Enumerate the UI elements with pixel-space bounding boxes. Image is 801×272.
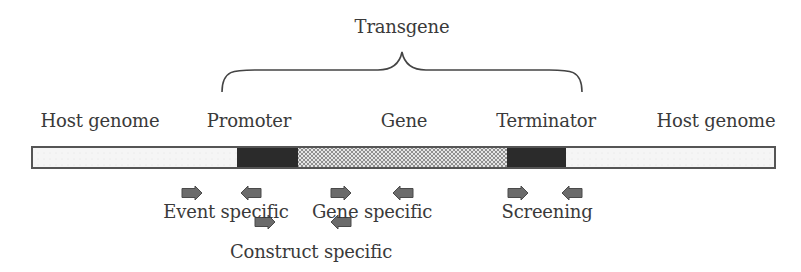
transgene-title: Transgene [355,18,450,36]
segment-gene [298,147,507,168]
region-label-host-genome-right: Host genome [657,112,776,130]
screening-reverse-primer-arrow-icon [562,186,582,200]
primer-label-gene-specific: Gene specific [312,203,432,221]
gene-specific-reverse-primer-arrow-icon [393,186,413,200]
region-label-terminator: Terminator [496,112,596,130]
event-specific-forward-primer-arrow-icon [182,186,202,200]
segment-host-right [566,147,775,168]
primer-label-screening: Screening [502,203,593,221]
primer-label-construct-specific: Construct specific [230,243,392,261]
segment-host-left [32,147,237,168]
gene-specific-forward-primer-arrow-icon [331,186,351,200]
region-label-gene: Gene [381,112,427,130]
region-label-promoter: Promoter [207,112,291,130]
region-label-host-genome-left: Host genome [41,112,160,130]
screening-forward-primer-arrow-icon [508,186,528,200]
transgene-brace [222,52,582,92]
genome-bar [32,147,775,168]
diagram-canvas [0,0,801,272]
event-specific-reverse-primer-arrow-icon [241,186,261,200]
segment-terminator [507,147,566,168]
primer-label-event-specific: Event specific [163,203,288,221]
segment-promoter [237,147,298,168]
